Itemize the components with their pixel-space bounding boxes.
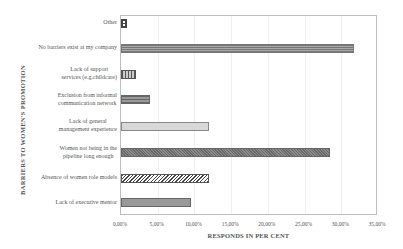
category-label: No barriers exist at my company (39, 43, 117, 51)
bar (121, 198, 191, 207)
plot-area (120, 15, 377, 215)
category-label: Lack of supportservices (e.g.childcare) (62, 65, 117, 81)
bar (121, 70, 136, 79)
x-tick-label: 35,00% (369, 221, 386, 227)
x-axis-title: RESPONDS IN PER CENT (120, 232, 377, 239)
bar (121, 19, 127, 28)
bar (121, 44, 354, 53)
x-tick-label: 15,00% (222, 221, 239, 227)
bar (121, 95, 150, 104)
x-tick-label: 20,00% (258, 221, 275, 227)
category-label: Women not being in thepipeline long enou… (59, 144, 117, 160)
category-label: Absence of women role models (41, 173, 117, 181)
category-label: Other (103, 18, 117, 26)
x-tick-label: 10,00% (185, 221, 202, 227)
bar (121, 148, 330, 157)
y-axis-title: BARRIERS TO WOMEN'S PROMOTION (19, 65, 26, 195)
category-label: Lack of executive mentor (56, 198, 117, 206)
x-tick-label: 25,00% (295, 221, 312, 227)
x-tick-label: 30,00% (332, 221, 349, 227)
bar (121, 122, 209, 131)
x-tick-label: 5,00% (150, 221, 164, 227)
bar (121, 174, 209, 183)
x-tick-label: 0,00% (113, 221, 127, 227)
category-label: Lack of generalmanagement experience (59, 117, 117, 133)
category-label: Exclusion from informalcommunication net… (58, 91, 117, 107)
